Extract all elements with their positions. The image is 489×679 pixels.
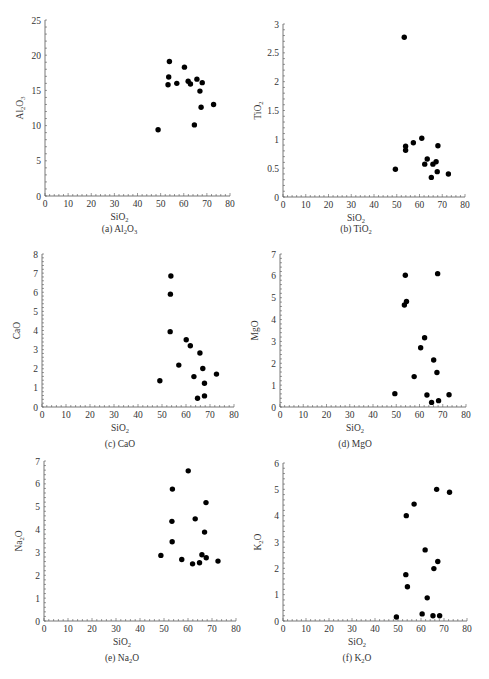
data-point <box>168 273 173 278</box>
data-point <box>188 343 193 348</box>
data-point <box>429 400 434 405</box>
data-point <box>184 337 189 342</box>
y-tick-label: 4 <box>35 525 40 535</box>
x-tick-label: 80 <box>229 410 239 420</box>
y-tick-label: 0 <box>271 403 276 413</box>
x-tick-label: 60 <box>415 200 425 210</box>
data-point <box>204 555 209 560</box>
panel-c-cao-scatter: 01020304050607080012345678SiO2​CaO(c) Ca… <box>12 250 239 451</box>
data-point <box>418 345 423 350</box>
y-tick-label: 2.5 <box>267 48 279 58</box>
data-point <box>433 159 438 164</box>
y-tick-label: 25 <box>32 16 42 26</box>
data-point <box>435 143 440 148</box>
x-tick-label: 60 <box>183 624 193 634</box>
figure: 010203040506070800510152025SiO2​Al2​O3​(… <box>0 0 489 679</box>
x-tick-label: 20 <box>324 624 334 634</box>
x-tick-label: 70 <box>207 624 217 634</box>
y-tick-label: 3 <box>35 548 40 558</box>
x-tick-label: 30 <box>110 199 120 209</box>
y-tick-label: 0.5 <box>267 164 279 174</box>
data-point <box>403 148 408 153</box>
x-axis-label: SiO2​ <box>110 212 128 223</box>
data-point <box>191 374 196 379</box>
y-tick-label: 3 <box>274 538 279 548</box>
panel-caption: (c) CaO <box>105 439 135 450</box>
x-tick-label: 0 <box>278 410 283 420</box>
data-point <box>211 102 216 107</box>
y-tick-label: 4 <box>271 315 276 325</box>
data-point <box>170 486 175 491</box>
y-tick-label: 6 <box>271 271 276 281</box>
data-point <box>405 584 410 589</box>
y-axis-label: K2​O <box>253 533 264 550</box>
data-point <box>429 175 434 180</box>
data-point <box>425 156 430 161</box>
data-point <box>202 529 207 534</box>
data-point <box>214 371 219 376</box>
data-point <box>179 557 184 562</box>
y-tick-label: 7 <box>35 457 40 467</box>
x-axis-label: SiO2​ <box>347 213 365 224</box>
x-tick-label: 10 <box>63 199 73 209</box>
x-tick-label: 70 <box>202 199 212 209</box>
x-tick-label: 30 <box>111 624 121 634</box>
x-tick-label: 60 <box>415 410 425 420</box>
data-point <box>200 80 205 85</box>
x-tick-label: 70 <box>438 410 448 420</box>
y-tick-label: 0 <box>274 193 279 203</box>
data-point <box>165 82 170 87</box>
y-axis-label: TiO2​ <box>253 101 264 119</box>
x-tick-label: 20 <box>87 199 97 209</box>
data-point <box>176 362 181 367</box>
y-tick-label: 1 <box>33 383 38 393</box>
x-tick-label: 50 <box>392 410 402 420</box>
x-tick-label: 10 <box>299 410 309 420</box>
data-point <box>392 391 397 396</box>
x-tick-label: 0 <box>40 410 45 420</box>
y-tick-label: 5 <box>36 156 41 166</box>
scatter-figure: 010203040506070800510152025SiO2​Al2​O3​(… <box>0 0 489 679</box>
data-point <box>402 302 407 307</box>
data-point <box>425 595 430 600</box>
x-axis-label: SiO2​ <box>111 423 129 434</box>
y-tick-label: 0 <box>274 617 279 627</box>
y-tick-label: 5 <box>274 485 279 495</box>
x-tick-label: 40 <box>368 410 378 420</box>
data-point <box>202 393 207 398</box>
x-tick-label: 0 <box>281 624 286 634</box>
y-tick-label: 6 <box>35 479 40 489</box>
y-tick-label: 5 <box>271 293 276 303</box>
y-tick-label: 4 <box>274 511 279 521</box>
data-point <box>166 74 171 79</box>
y-tick-label: 0 <box>35 617 40 627</box>
data-point <box>167 329 172 334</box>
data-point <box>435 559 440 564</box>
data-point <box>419 135 424 140</box>
panel-caption: (a) Al2​O3​ <box>102 224 137 235</box>
x-axis-label: SiO2​ <box>348 637 366 648</box>
x-tick-label: 40 <box>135 624 145 634</box>
data-point <box>197 88 202 93</box>
data-point <box>422 335 427 340</box>
data-point <box>174 81 179 86</box>
data-point <box>437 613 442 618</box>
data-point <box>422 547 427 552</box>
x-axis-label: SiO2​ <box>346 423 364 434</box>
y-tick-label: 0 <box>33 403 38 413</box>
y-axis-label: Al2​O3​ <box>15 97 26 120</box>
y-tick-label: 7 <box>271 250 276 260</box>
y-axis-label: MgO <box>250 320 260 340</box>
x-tick-label: 50 <box>392 200 402 210</box>
data-point <box>215 558 220 563</box>
x-tick-label: 70 <box>439 624 449 634</box>
panel-caption: (f) K2​O <box>343 653 372 664</box>
data-point <box>197 350 202 355</box>
data-point <box>197 560 202 565</box>
data-point <box>411 374 416 379</box>
x-tick-label: 30 <box>347 200 357 210</box>
y-tick-label: 3 <box>33 345 38 355</box>
panel-a-al2o3-scatter: 010203040506070800510152025SiO2​Al2​O3​(… <box>15 16 235 236</box>
x-tick-label: 60 <box>179 199 189 209</box>
x-tick-label: 50 <box>393 624 403 634</box>
